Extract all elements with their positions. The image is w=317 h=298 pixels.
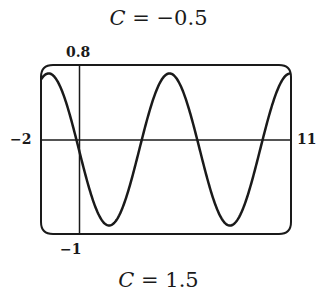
plot-area: [0, 0, 317, 298]
y-max-label: 0.8: [66, 44, 90, 60]
x-max-label: 11: [297, 131, 316, 147]
subtitle-value: = 1.5: [134, 268, 198, 292]
y-min-label: −1: [60, 241, 81, 257]
x-min-label: −2: [10, 131, 31, 147]
chart-subtitle: C = 1.5: [0, 268, 317, 292]
curve-line: [41, 73, 291, 225]
subtitle-variable: C: [118, 268, 134, 292]
